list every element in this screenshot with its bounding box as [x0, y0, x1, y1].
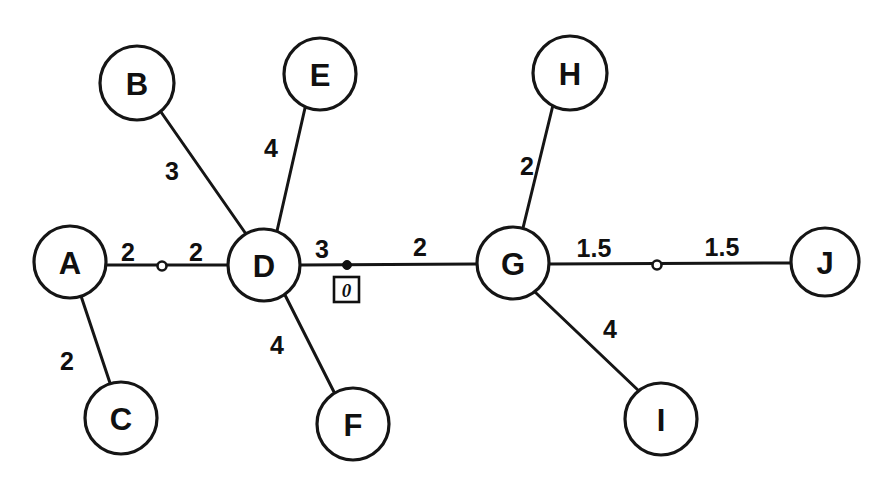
node-f[interactable]: F	[317, 388, 389, 460]
weight-d-g-near: 3	[315, 235, 329, 263]
weighted-graph-svg: 0 2 3 4 4 2 4 2 2 3 2 1.5 1.5 A B	[0, 0, 890, 489]
weight-a-d-right: 2	[189, 238, 203, 266]
node-a-label: A	[59, 246, 81, 281]
node-d[interactable]: D	[228, 229, 300, 301]
midpoint-hollow-a-d	[158, 262, 167, 271]
edge-d-f	[285, 295, 334, 392]
node-h-label: H	[559, 57, 581, 92]
weight-d-g-far: 2	[413, 233, 427, 261]
node-b[interactable]: B	[100, 46, 174, 120]
weight-a-d-left: 2	[121, 238, 135, 266]
marker-point-d-g	[343, 261, 352, 270]
node-h[interactable]: H	[533, 36, 607, 110]
edge-weight-layer: 2 3 4 4 2 4 2 2 3 2 1.5 1.5	[60, 134, 739, 375]
node-c-label: C	[110, 402, 132, 437]
node-c[interactable]: C	[85, 382, 157, 454]
node-g-label: G	[501, 247, 525, 282]
edge-d-g	[300, 264, 477, 265]
weight-e-d: 4	[264, 134, 278, 162]
zero-marker: 0	[334, 277, 359, 302]
node-b-label: B	[126, 67, 148, 102]
weight-g-j-left: 1.5	[577, 234, 612, 262]
diagram-canvas: 0 2 3 4 4 2 4 2 2 3 2 1.5 1.5 A B	[0, 0, 890, 489]
weight-a-c: 2	[60, 347, 74, 375]
weight-h-g: 2	[520, 152, 534, 180]
zero-marker-label: 0	[342, 280, 352, 301]
node-j[interactable]: J	[791, 228, 859, 296]
weight-g-j-right: 1.5	[705, 233, 740, 261]
edge-e-d	[277, 108, 305, 231]
node-i[interactable]: I	[625, 383, 697, 455]
node-d-label: D	[253, 249, 275, 284]
node-e-label: E	[310, 58, 331, 93]
node-e[interactable]: E	[284, 38, 356, 110]
edge-g-j	[549, 263, 791, 264]
weight-d-f: 4	[270, 331, 284, 359]
node-a[interactable]: A	[34, 226, 106, 298]
weight-b-d: 3	[165, 157, 179, 185]
midpoint-hollow-g-j	[653, 261, 662, 270]
edge-a-c	[81, 296, 110, 383]
node-j-label: J	[816, 246, 833, 281]
node-f-label: F	[344, 408, 363, 443]
weight-g-i: 4	[603, 315, 617, 343]
node-g[interactable]: G	[477, 227, 549, 299]
node-i-label: I	[657, 403, 666, 438]
edge-layer	[81, 105, 791, 392]
edge-g-i	[535, 292, 640, 392]
